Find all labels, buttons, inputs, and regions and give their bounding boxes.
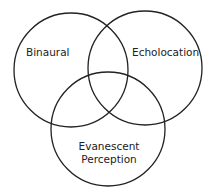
label-binaural: Binaural [26, 46, 70, 59]
circle-binaural [14, 13, 128, 127]
label-evanescent-perception: Evanescent Perception [78, 140, 140, 166]
circle-echolocation [88, 11, 202, 125]
label-evanescent-line1: Evanescent [78, 140, 140, 153]
label-evanescent-line2: Perception [78, 153, 140, 166]
label-echolocation: Echolocation [132, 46, 199, 59]
circle-evanescent-perception [51, 72, 165, 186]
